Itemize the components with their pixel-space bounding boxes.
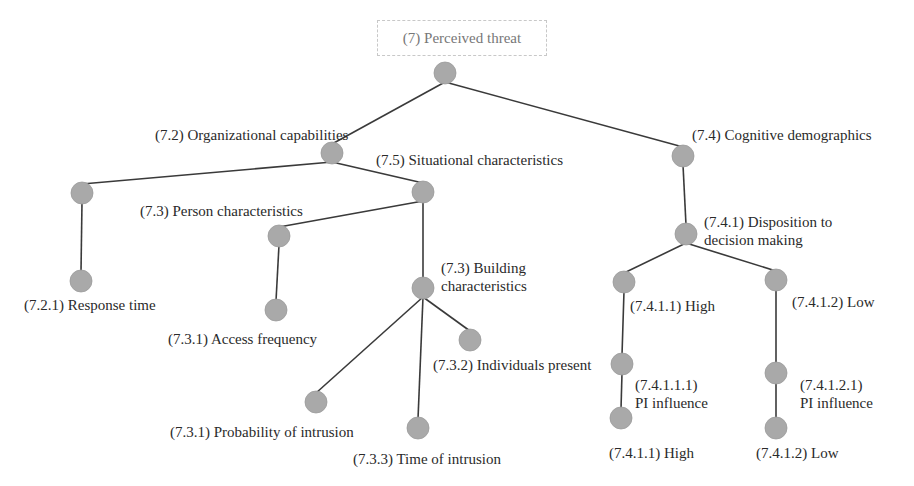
tree-edge [622,291,624,355]
tree-node-n74121 [765,362,787,384]
label-pi-low-line1: (7.4.1.2.1) [800,376,863,394]
label-access-frequency: (7.3.1) Access frequency [168,330,317,348]
tree-node-n72a [71,182,93,204]
tree-node-n741 [675,223,697,245]
tree-node-n73b [412,277,434,299]
tree-edge [82,162,332,184]
label-response-time: (7.2.1) Response time [24,296,156,314]
tree-edge [332,82,445,144]
label-individuals-present: (7.3.2) Individuals present [433,356,591,374]
tree-node-n733 [407,417,429,439]
label-pi-high-line2: PI influence [635,394,708,412]
root-node-label: (7) Perceived threat [377,20,547,56]
tree-node-leafH [610,407,632,429]
label-disposition-line1: (7.4.1) Disposition to [704,213,832,231]
tree-node-n731a [265,299,287,321]
tree-edge [445,82,683,147]
tree-node-n732 [459,329,481,351]
label-person: (7.3) Person characteristics [140,202,303,220]
tree-node-root [434,62,456,84]
label-leaf-high: (7.4.1.1) High [609,444,694,462]
label-building-line1: (7.3) Building [441,259,526,277]
tree-edge [621,373,622,409]
tree-edge [276,245,279,301]
tree-edge [683,165,686,225]
label-high: (7.4.1.1) High [630,297,715,315]
tree-node-n74111 [611,353,633,375]
tree-node-n73p [268,225,290,247]
tree-node-n731p [305,391,327,413]
tree-node-n7412 [765,269,787,291]
tree-node-n75 [412,181,434,203]
label-building-line2: characteristics [441,277,527,295]
label-situational: (7.5) Situational characteristics [376,151,563,169]
label-pi-low-line2: PI influence [800,394,873,412]
tree-edge [81,202,82,272]
tree-edge [423,297,470,331]
tree-node-n74 [672,145,694,167]
tree-edge [418,297,423,419]
tree-node-n721 [70,270,92,292]
tree-edge [316,297,423,393]
tree-node-n7411 [613,271,635,293]
label-time-intrusion: (7.3.3) Time of intrusion [353,450,501,468]
label-pi-high-line1: (7.4.1.1.1) [635,376,698,394]
label-low: (7.4.1.2) Low [792,293,875,311]
tree-node-leafL [765,417,787,439]
label-leaf-low: (7.4.1.2) Low [756,444,839,462]
label-probability-intrusion: (7.3.1) Probability of intrusion [170,423,354,441]
label-cognitive: (7.4) Cognitive demographics [692,126,872,144]
label-org-capabilities: (7.2) Organizational capabilities [155,126,348,144]
label-disposition-line2: decision making [704,231,803,249]
tree-node-n72 [321,142,343,164]
tree-edge [624,243,686,273]
